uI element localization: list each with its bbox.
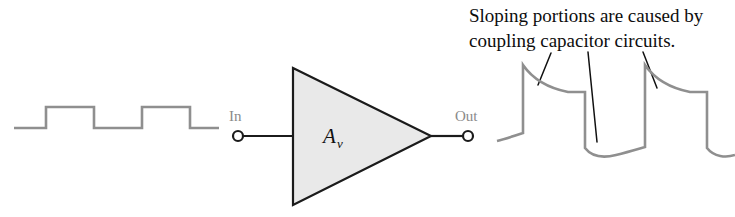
annotation-line-2: coupling capacitor circuits. xyxy=(469,30,675,51)
input-square-wave-path xyxy=(14,107,219,128)
input-waveform-group xyxy=(14,107,219,128)
output-terminal-node xyxy=(463,131,473,141)
figure-container: In Out A v Sloping portions are caused b… xyxy=(0,0,735,217)
figure-svg: In Out A v Sloping portions are caused b… xyxy=(0,0,735,217)
amplifier-triangle xyxy=(293,68,431,205)
output-waveform-group xyxy=(497,65,735,157)
annotation-line-1: Sloping portions are caused by xyxy=(469,5,704,26)
output-sagging-wave-path xyxy=(497,65,735,157)
input-terminal-node xyxy=(233,131,243,141)
output-port-label: Out xyxy=(455,108,478,124)
leader-lines-group xyxy=(538,52,657,142)
gain-subscript-label: v xyxy=(337,136,343,151)
input-port-label: In xyxy=(229,108,242,124)
leader-line-2 xyxy=(588,52,597,142)
gain-symbol-label: A xyxy=(321,124,336,148)
annotation-text-group: Sloping portions are caused by coupling … xyxy=(469,5,704,51)
amplifier-group: In Out A v xyxy=(229,68,478,205)
